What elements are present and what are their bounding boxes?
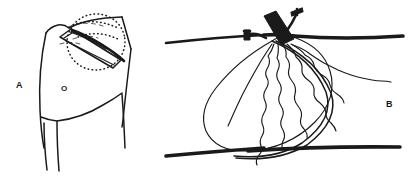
panel-a-label: A: [16, 81, 23, 90]
suture-pin-upper: [286, 8, 303, 32]
thigh-contour-lines: [44, 94, 125, 171]
suture-pin-left: [244, 30, 266, 40]
incision-site-marker: O: [61, 85, 67, 93]
figure-container: A B O: [0, 0, 409, 183]
panel-b-illustration: [160, 0, 409, 183]
panel-b-label: B: [386, 100, 393, 109]
inguinal-crease-line: [41, 93, 122, 121]
rectangular-flap-strip: [60, 29, 121, 68]
